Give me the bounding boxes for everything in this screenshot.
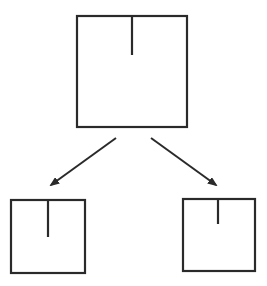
diagram-canvas [0, 0, 267, 286]
node-child-right [183, 199, 255, 271]
tree-diagram [0, 0, 267, 286]
arrow-parent-to-child-right [151, 138, 216, 185]
arrow-parent-to-child-left [51, 138, 116, 185]
node-child-left [11, 200, 85, 273]
edges [51, 138, 216, 185]
nodes [11, 16, 255, 273]
node-parent [77, 16, 187, 127]
